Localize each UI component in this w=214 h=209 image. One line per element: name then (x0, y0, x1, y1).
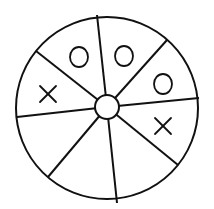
x-mark-icon (155, 118, 171, 134)
o-mark-icon (115, 46, 133, 66)
spoke-3 (107, 107, 178, 165)
spoke-2 (107, 98, 199, 107)
spoke-0 (97, 15, 107, 107)
spoke-7 (36, 51, 107, 107)
center-hub (95, 95, 119, 119)
spinner-wheel (0, 0, 214, 209)
spoke-6 (17, 107, 107, 117)
o-mark-icon (70, 47, 88, 67)
spoke-4 (107, 107, 117, 203)
o-mark-icon (154, 74, 172, 94)
spoke-5 (48, 107, 107, 177)
x-mark-icon (40, 86, 56, 102)
